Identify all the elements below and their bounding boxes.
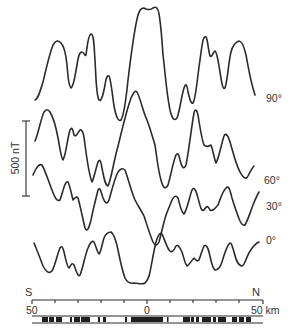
profile-60deg [35,91,254,187]
profile-90deg [35,7,255,120]
profile-label-30: 30° [266,200,282,212]
amplitude-scale-bar: 500 nT [9,121,30,196]
amplitude-scale-label: 500 nT [9,141,21,174]
distance-axis: 50 0 50 km [26,300,280,316]
profile-label-0: 0° [266,234,276,246]
profile-label-60: 60° [264,174,280,186]
magnetic-anomaly-profiles-figure: 500 nT 90° 60° 30° 0° S N 50 0 50 km [0,0,294,331]
direction-south-label: S [25,286,32,298]
direction-north-label: N [252,286,260,298]
axis-tick-label-center: 0 [144,304,150,316]
axis-tick-label-right: 50 km [251,304,280,316]
axis-tick-label-left: 50 [26,304,38,316]
profile-30deg [33,165,259,245]
magnetic-stripe-bar [32,316,263,323]
profile-label-90: 90° [266,92,282,104]
profile-0deg [34,232,259,284]
